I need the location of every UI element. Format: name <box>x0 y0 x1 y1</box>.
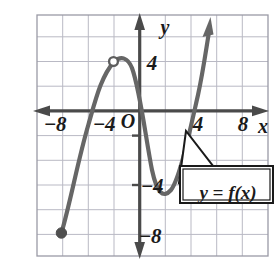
y-axis-label: y <box>159 16 170 39</box>
y-tick-label-neg8: −8 <box>138 224 162 248</box>
open-circle-marker <box>109 57 118 66</box>
x-tick-label-neg4: −4 <box>92 112 115 136</box>
coordinate-plane: y = f(x) −8 −4 4 8 x 4 −4 −8 y O <box>0 0 275 268</box>
callout-label: y = f(x) <box>197 182 256 204</box>
x-axis-label: x <box>257 115 268 137</box>
x-tick-label-4: 4 <box>192 112 204 136</box>
graph-figure: y = f(x) −8 −4 4 8 x 4 −4 −8 y O <box>0 0 275 268</box>
y-tick-label-neg4: −4 <box>140 174 163 198</box>
origin-label: O <box>121 110 135 132</box>
x-tick-label-neg8: −8 <box>43 112 67 136</box>
x-tick-label-8: 8 <box>238 112 249 136</box>
y-tick-label-4: 4 <box>146 51 158 75</box>
closed-endpoint-marker <box>56 228 66 238</box>
